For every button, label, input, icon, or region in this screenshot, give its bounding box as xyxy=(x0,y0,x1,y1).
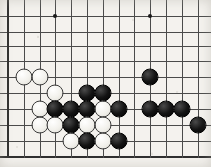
grid-line-vertical-8 xyxy=(134,0,135,158)
black-stone-c12-r7[interactable] xyxy=(190,117,207,134)
white-stone-c6-r7[interactable] xyxy=(95,117,112,134)
grid-line-vertical-11 xyxy=(182,0,183,158)
black-stone-c5-r5[interactable] xyxy=(79,85,96,102)
grid-line-horizontal-3 xyxy=(0,61,211,62)
black-stone-c5-r8[interactable] xyxy=(79,133,96,150)
white-stone-c6-r8[interactable] xyxy=(95,133,112,150)
grid-line-horizontal-0 xyxy=(0,16,211,17)
white-stone-c2-r4[interactable] xyxy=(32,69,49,86)
white-stone-c6-r6[interactable] xyxy=(95,101,112,118)
grid-line-vertical-12 xyxy=(198,0,199,158)
grid-line-vertical-3 xyxy=(55,0,56,158)
grid-line-horizontal-9 xyxy=(0,156,211,158)
black-stone-c9-r6[interactable] xyxy=(142,101,159,118)
go-board[interactable] xyxy=(0,0,211,167)
white-stone-c1-r4[interactable] xyxy=(16,69,33,86)
star-point-1 xyxy=(148,14,152,18)
grid-line-horizontal-2 xyxy=(0,46,211,47)
black-stone-c7-r6[interactable] xyxy=(111,101,128,118)
black-stone-c10-r6[interactable] xyxy=(158,101,175,118)
black-stone-c5-r6[interactable] xyxy=(79,101,96,118)
black-stone-c6-r5[interactable] xyxy=(95,85,112,102)
white-stone-c5-r7[interactable] xyxy=(79,117,96,134)
white-stone-c3-r5[interactable] xyxy=(47,85,64,102)
black-stone-c4-r6[interactable] xyxy=(63,101,80,118)
black-stone-c9-r4[interactable] xyxy=(142,69,159,86)
grid-line-vertical-0 xyxy=(7,0,9,158)
black-stone-c4-r7[interactable] xyxy=(63,117,80,134)
black-stone-c11-r6[interactable] xyxy=(174,101,191,118)
white-stone-c3-r7[interactable] xyxy=(47,117,64,134)
black-stone-c7-r8[interactable] xyxy=(111,133,128,150)
white-stone-c4-r8[interactable] xyxy=(63,133,80,150)
star-point-0 xyxy=(53,14,57,18)
grid-line-horizontal-1 xyxy=(0,32,211,33)
grid-line-vertical-10 xyxy=(166,0,167,158)
black-stone-c3-r6[interactable] xyxy=(47,101,64,118)
